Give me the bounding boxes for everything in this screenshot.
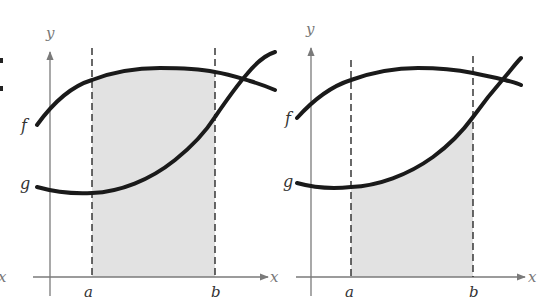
bound-b-label: b (211, 283, 221, 301)
curve-g-label: g (283, 172, 293, 191)
bound-b-label: b (469, 283, 479, 301)
curve-g-label: g (20, 174, 30, 193)
x-axis-label: x (528, 268, 537, 286)
bound-a-label: a (84, 283, 93, 301)
panel-right: y x a b f g (283, 20, 537, 301)
y-axis-label: y (305, 20, 315, 38)
left-edge-fragment: x (0, 58, 7, 286)
y-axis-label: y (45, 24, 55, 42)
bound-a-label: a (345, 283, 354, 301)
x-axis-label: x (270, 268, 279, 286)
curve-f-label: f (284, 109, 294, 128)
curve-f-label: f (20, 116, 30, 135)
area-diagram: x y x a b f g y x a b (0, 0, 543, 301)
fragment-x-label: x (0, 268, 7, 286)
curve-f (297, 68, 521, 118)
panel-left: y x a b f g (20, 24, 279, 301)
